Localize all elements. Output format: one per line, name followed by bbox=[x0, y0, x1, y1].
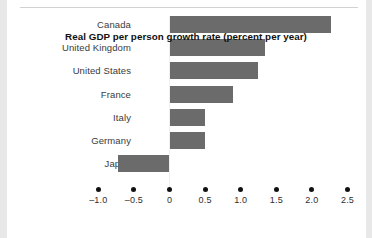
tick-dot-icon bbox=[167, 187, 172, 192]
x-axis: –1.0–0.500.51.01.52.02.5 bbox=[0, 184, 372, 238]
x-tick-label: 2.5 bbox=[333, 195, 363, 205]
category-label-france: France bbox=[0, 86, 131, 103]
bar-france bbox=[170, 86, 233, 103]
x-axis-title: Real GDP per person growth rate (percent… bbox=[0, 31, 372, 42]
bar-japan bbox=[118, 155, 169, 172]
x-tick--0-5: –0.5 bbox=[119, 184, 149, 205]
x-tick-label: 1.0 bbox=[226, 195, 256, 205]
bar-italy bbox=[170, 109, 206, 126]
tick-dot-icon bbox=[131, 187, 136, 192]
tick-dot-icon bbox=[274, 187, 279, 192]
chart-figure: CanadaUnited KingdomUnited StatesFranceI… bbox=[0, 0, 372, 238]
bar-germany bbox=[170, 132, 206, 149]
bar-row: United States bbox=[0, 62, 372, 79]
x-tick-1-5: 1.5 bbox=[261, 184, 291, 205]
x-tick-label: 0.5 bbox=[190, 195, 220, 205]
x-tick--1: –1.0 bbox=[83, 184, 113, 205]
top-divider-rule bbox=[20, 7, 358, 8]
x-tick-2-5: 2.5 bbox=[333, 184, 363, 205]
bar-united-states bbox=[170, 62, 258, 79]
tick-dot-icon bbox=[203, 187, 208, 192]
category-label-united-states: United States bbox=[0, 62, 131, 79]
x-tick-label: –1.0 bbox=[83, 195, 113, 205]
tick-dot-icon bbox=[345, 187, 350, 192]
tick-dot-icon bbox=[238, 187, 243, 192]
tick-dot-icon bbox=[96, 187, 101, 192]
bar-row: Germany bbox=[0, 132, 372, 149]
x-tick-label: 2.0 bbox=[297, 195, 327, 205]
x-tick-1: 1.0 bbox=[226, 184, 256, 205]
category-label-italy: Italy bbox=[0, 109, 131, 126]
x-tick-0-5: 0.5 bbox=[190, 184, 220, 205]
x-tick-label: 1.5 bbox=[261, 195, 291, 205]
bar-row: France bbox=[0, 86, 372, 103]
bar-row: Italy bbox=[0, 109, 372, 126]
category-label-germany: Germany bbox=[0, 132, 131, 149]
x-tick-2: 2.0 bbox=[297, 184, 327, 205]
x-tick-label: –0.5 bbox=[119, 195, 149, 205]
x-tick-0: 0 bbox=[155, 184, 185, 205]
tick-dot-icon bbox=[309, 187, 314, 192]
bar-row: Japan bbox=[0, 155, 372, 172]
x-tick-label: 0 bbox=[155, 195, 185, 205]
category-label-japan: Japan bbox=[0, 155, 131, 172]
